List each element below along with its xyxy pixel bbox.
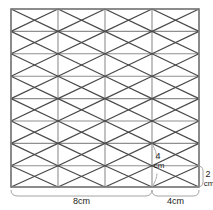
dimension-label-8cm: 8cm [73,196,90,206]
tessellation-diagram: 8cm 4cm 4 cm 2 cm [0,0,213,210]
dimension-label-right-height-number: 2 [205,169,210,179]
figure-container: 8cm 4cm 4 cm 2 cm [0,0,213,210]
dimension-label-4cm: 4cm [167,196,184,206]
dimension-label-inner-height-unit: cm [154,161,165,170]
dimension-label-inner-height-number: 4 [155,151,160,161]
dimension-label-right-height-unit: cm [204,179,213,188]
